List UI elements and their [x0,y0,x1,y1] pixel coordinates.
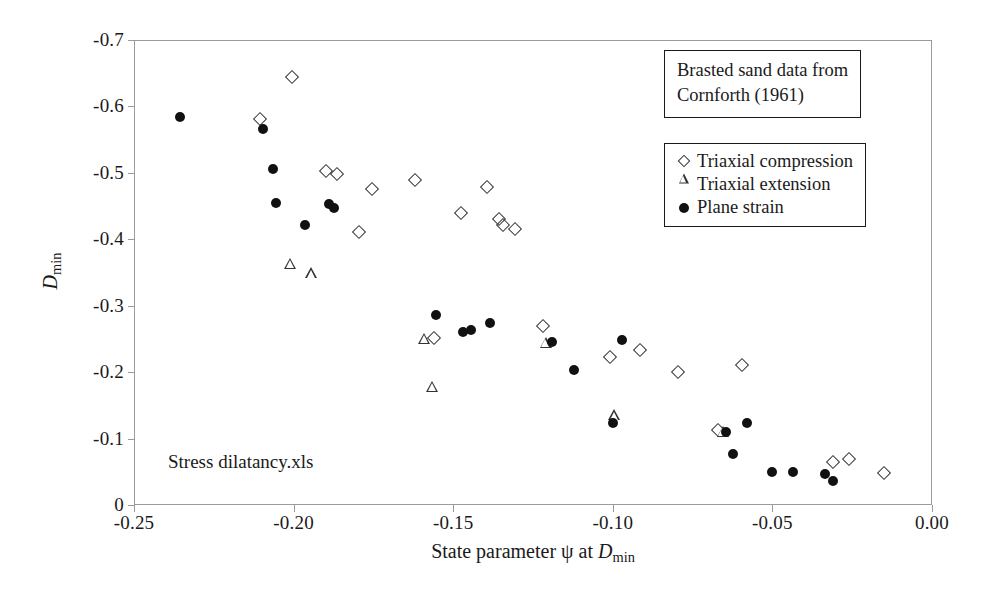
y-axis-tick-label: -0.6 [62,96,124,115]
data-point-triaxial-compression [603,350,617,364]
data-point-triaxial-extension [284,258,296,269]
legend-item-filled-circle: Plane strain [677,196,853,219]
x-axis-tick-mark [453,505,454,512]
legend-item-open-diamond: Triaxial compression [677,150,853,173]
filled-circle-icon [677,196,697,219]
data-point-triaxial-extension [426,381,438,392]
data-point-triaxial-extension [305,267,317,278]
data-point-plane-strain [175,112,185,122]
data-point-plane-strain [466,325,476,335]
y-axis-tick-label: -0.2 [62,362,124,381]
open-diamond-icon [677,150,697,173]
data-point-plane-strain [547,337,557,347]
data-point-plane-strain [431,310,441,320]
chart-annotation: Stress dilatancy.xls [168,451,313,473]
x-axis-tick-mark [294,505,295,512]
x-axis-title: State parameter ψ at Dmin [134,540,932,566]
data-point-plane-strain [788,467,798,477]
data-point-plane-strain [617,335,627,345]
data-point-triaxial-compression [480,180,494,194]
x-axis-tick-mark [613,505,614,512]
data-point-triaxial-compression [285,69,299,83]
data-point-triaxial-compression [365,182,379,196]
data-point-triaxial-compression [678,155,691,168]
data-point-plane-strain [485,318,495,328]
x-axis-tick-mark [932,505,933,512]
x-axis-title-var: D [598,540,612,562]
y-axis-title-var: D [39,275,61,289]
data-point-plane-strain [828,476,838,486]
y-axis-tick-label: -0.4 [62,229,124,248]
data-point-triaxial-compression [508,222,522,236]
x-axis-tick-mark [134,505,135,512]
data-point-plane-strain [300,220,310,230]
data-point-triaxial-compression [633,343,647,357]
legend-item-label: Plane strain [697,196,784,219]
data-point-plane-strain [742,418,752,428]
legend-box: Triaxial compressionTriaxial extensionPl… [664,143,866,227]
x-axis-tick-label: 0.00 [887,513,977,532]
source-note-line-1: Brasted sand data from [677,58,848,83]
y-axis-tick-label: -0.5 [62,163,124,182]
source-note-line-2: Cornforth (1961) [677,83,848,108]
data-point-triaxial-compression [826,455,840,469]
data-point-triaxial-extension [418,333,430,344]
y-axis-tick-label: -0.3 [62,296,124,315]
data-point-plane-strain [679,203,689,213]
data-point-plane-strain [767,467,777,477]
legend-item-open-triangle: Triaxial extension [677,173,853,196]
data-point-triaxial-compression [671,365,685,379]
data-point-plane-strain [268,164,278,174]
data-point-plane-strain [258,124,268,134]
data-point-triaxial-compression [842,452,856,466]
data-point-triaxial-compression [877,466,891,480]
x-axis-tick-label: -0.10 [568,513,658,532]
x-axis-tick-mark [772,505,773,512]
y-axis-tick-label: -0.1 [62,429,124,448]
data-point-plane-strain [271,198,281,208]
data-point-plane-strain [329,203,339,213]
y-axis-tick-label: -0.7 [62,30,124,49]
legend-item-label: Triaxial compression [697,150,853,173]
data-point-triaxial-compression [454,206,468,220]
scatter-chart-figure: -0.7-0.6-0.5-0.4-0.3-0.2-0.10-0.25-0.20-… [0,0,998,594]
data-point-plane-strain [608,418,618,428]
x-axis-title-prefix: State parameter ψ at [431,540,598,562]
data-point-triaxial-extension [679,174,689,184]
x-axis-tick-label: -0.20 [249,513,339,532]
x-axis-title-subscript: min [612,549,634,565]
data-point-plane-strain [569,365,579,375]
legend-item-label: Triaxial extension [697,173,830,196]
source-note-box: Brasted sand data from Cornforth (1961) [664,50,861,118]
data-point-triaxial-compression [318,164,332,178]
data-point-triaxial-compression [735,358,749,372]
data-point-plane-strain [728,449,738,459]
data-point-plane-strain [721,427,731,437]
open-triangle-icon [677,173,697,196]
data-point-triaxial-compression [352,225,366,239]
x-axis-tick-label: -0.15 [408,513,498,532]
y-axis-title: Dmin [39,211,65,331]
data-point-triaxial-compression [535,319,549,333]
data-point-triaxial-compression [408,173,422,187]
y-axis-title-subscript: min [48,253,64,275]
x-axis-tick-label: -0.05 [727,513,817,532]
x-axis-tick-label: -0.25 [89,513,179,532]
